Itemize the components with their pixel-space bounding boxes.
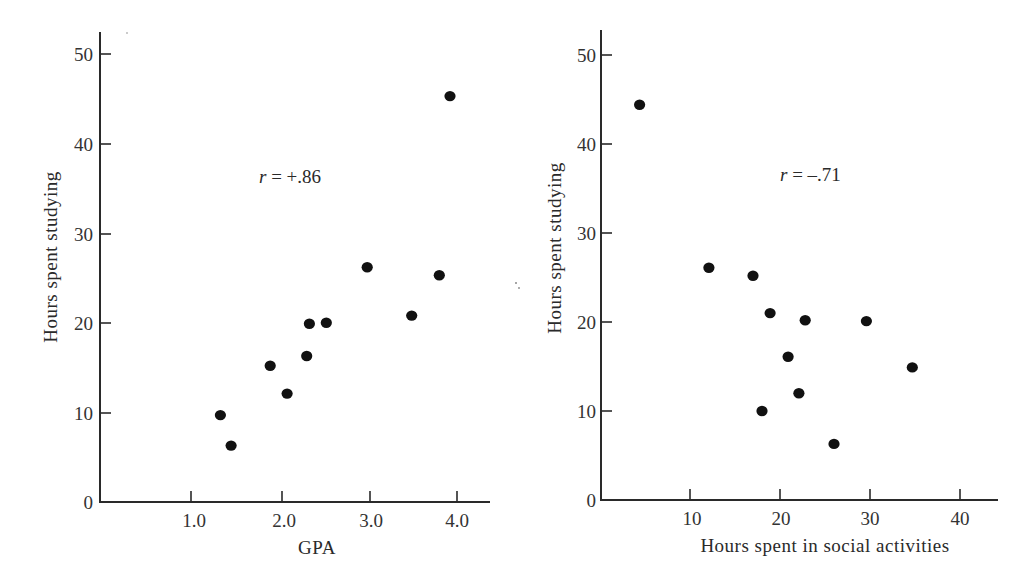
data-point	[828, 439, 839, 449]
data-point	[756, 406, 767, 416]
y-ticks	[601, 55, 612, 411]
data-point	[703, 263, 714, 273]
y-tick-label: 20	[577, 312, 596, 333]
y-tick-label: 10	[577, 401, 596, 422]
x-tick-label: 3.0	[359, 510, 383, 531]
x-tick-label: 2.0	[272, 510, 296, 531]
y-tick-label: 40	[74, 134, 93, 155]
data-point	[793, 388, 804, 398]
y-tick-label: 10	[74, 403, 93, 424]
x-tick-label: 20	[772, 508, 791, 529]
y-axis-title: Hours spent studying	[544, 162, 565, 334]
x-tick-label: 30	[861, 508, 880, 529]
x-ticks	[690, 489, 960, 500]
data-points	[215, 91, 456, 451]
x-axis-title: GPA	[298, 537, 336, 558]
y-tick-label: 30	[74, 224, 93, 245]
data-point	[304, 319, 315, 329]
x-tick-labels: 1.0 2.0 3.0 4.0	[182, 510, 469, 531]
data-point	[362, 262, 373, 272]
data-point	[406, 310, 417, 320]
y-tick-label: 30	[577, 223, 596, 244]
y-axis-title: Hours spent studying	[40, 171, 61, 343]
data-point	[783, 352, 794, 362]
scatter-chart-gpa: 0 10 20 30 40 50 1.0 2.0 3.0 4.0 GPA Hou…	[0, 0, 515, 580]
data-point	[765, 308, 776, 318]
y-tick-label: 0	[84, 492, 94, 513]
data-point	[301, 351, 312, 361]
data-point	[907, 362, 918, 372]
x-ticks	[191, 491, 457, 502]
data-point	[747, 271, 758, 281]
correlation-annotation: r = +.86	[259, 166, 321, 187]
chart-canvas-gpa: 0 10 20 30 40 50 1.0 2.0 3.0 4.0 GPA Hou…	[0, 0, 515, 580]
y-tick-labels: 0 10 20 30 40 50	[577, 45, 596, 511]
data-points	[634, 100, 918, 449]
chart-canvas-social: 0 10 20 30 40 50 10 20 30 40 Hours spent…	[515, 0, 1029, 580]
data-point	[434, 270, 445, 280]
data-point	[861, 316, 872, 326]
y-tick-label: 40	[577, 134, 596, 155]
y-tick-label: 50	[577, 45, 596, 66]
data-point	[265, 361, 276, 371]
x-tick-label: 4.0	[445, 510, 469, 531]
x-axis-title: Hours spent in social activities	[700, 535, 949, 556]
y-tick-label: 0	[587, 490, 597, 511]
data-point	[226, 440, 237, 450]
x-tick-label: 40	[951, 508, 970, 529]
data-point	[215, 410, 226, 420]
x-tick-label: 10	[683, 508, 702, 529]
scatter-chart-social: 0 10 20 30 40 50 10 20 30 40 Hours spent…	[515, 0, 1029, 580]
x-tick-label: 1.0	[182, 510, 206, 531]
data-point	[634, 100, 645, 110]
correlation-annotation: r = –.71	[780, 164, 841, 185]
data-point	[444, 91, 455, 101]
y-tick-label: 50	[74, 44, 93, 65]
y-tick-labels: 0 10 20 30 40 50	[74, 44, 93, 513]
data-point	[282, 388, 293, 398]
x-tick-labels: 10 20 30 40	[683, 508, 970, 529]
data-point	[800, 315, 811, 325]
y-tick-label: 20	[74, 313, 93, 334]
data-point	[321, 318, 332, 328]
y-ticks	[100, 54, 111, 413]
